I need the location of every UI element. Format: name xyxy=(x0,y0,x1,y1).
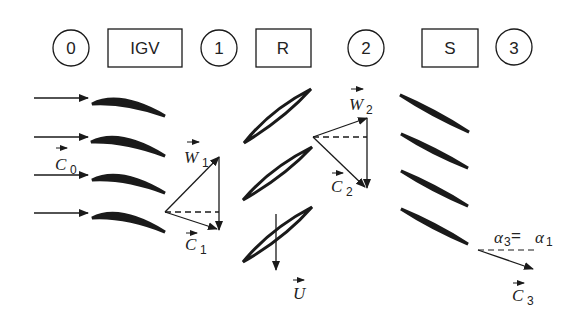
svg-text:C: C xyxy=(331,177,343,196)
svg-text:1: 1 xyxy=(200,243,207,257)
stator-box: S xyxy=(422,29,478,67)
svg-text:C: C xyxy=(185,235,197,254)
station-3: 3 xyxy=(496,29,532,65)
svg-text:C: C xyxy=(55,155,67,174)
igv-box: IGV xyxy=(108,29,182,67)
svg-text:α: α xyxy=(535,228,545,247)
station-2-label: 2 xyxy=(361,39,370,58)
svg-text:0: 0 xyxy=(70,163,77,177)
station-0: 0 xyxy=(53,30,89,66)
svg-text:3: 3 xyxy=(504,235,511,249)
c3-label: C 3 xyxy=(512,283,534,308)
rotor-blades xyxy=(243,89,312,262)
rotor-label: R xyxy=(277,39,289,58)
svg-text:2: 2 xyxy=(366,103,373,117)
stator-label: S xyxy=(444,39,455,58)
c2-label: C 2 xyxy=(331,173,353,199)
station-3-label: 3 xyxy=(509,39,518,58)
w2-label: W 2 xyxy=(349,89,373,117)
svg-text:W: W xyxy=(184,148,200,167)
igv-blades xyxy=(91,99,165,232)
svg-text:U: U xyxy=(293,284,307,303)
velocity-triangle-1 xyxy=(165,157,219,230)
station-1: 1 xyxy=(201,30,237,66)
station-1-label: 1 xyxy=(214,39,223,58)
svg-text:2: 2 xyxy=(346,185,353,199)
svg-text:α: α xyxy=(494,228,504,247)
svg-text:C: C xyxy=(512,286,524,305)
svg-text:W: W xyxy=(349,95,365,114)
angle-relation-label: α 3 = α 1 xyxy=(494,226,553,249)
compressor-stage-diagram: 0 IGV 1 R 2 S 3 C 0 xyxy=(0,0,571,328)
svg-text:=: = xyxy=(511,226,521,245)
rotor-box: R xyxy=(256,29,311,67)
svg-text:1: 1 xyxy=(202,156,209,170)
igv-label: IGV xyxy=(130,39,160,58)
station-2: 2 xyxy=(348,30,384,66)
svg-text:1: 1 xyxy=(546,235,553,249)
c0-label: C 0 xyxy=(55,148,77,177)
svg-text:3: 3 xyxy=(527,294,534,308)
stator-blades xyxy=(400,95,469,244)
w1-label: W 1 xyxy=(184,142,209,170)
exit-flow xyxy=(478,250,535,269)
c1-label: C 1 xyxy=(185,233,207,257)
station-0-label: 0 xyxy=(66,39,75,58)
